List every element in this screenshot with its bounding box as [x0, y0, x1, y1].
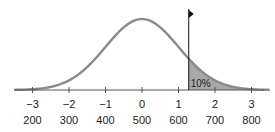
score-tick-label: 800: [242, 114, 260, 126]
score-tick-label: 200: [23, 114, 41, 126]
z-score-tick-label: 2: [212, 98, 218, 110]
z-score-tick-label: 3: [248, 98, 254, 110]
score-tick-label: 700: [206, 114, 224, 126]
z-score-tick-label: −3: [26, 98, 39, 110]
score-tick-label: 500: [133, 114, 151, 126]
flag-icon: [189, 10, 194, 18]
x-axis-ticks: −3200−2300−14000500160027003800: [23, 87, 260, 126]
bell-curve: [14, 19, 270, 90]
shaded-area-label: 10%: [191, 78, 211, 89]
z-score-tick-label: 0: [139, 98, 145, 110]
z-score-tick-label: −1: [99, 98, 112, 110]
score-tick-label: 300: [60, 114, 78, 126]
score-tick-label: 600: [169, 114, 187, 126]
normal-distribution-chart: −3200−2300−14000500160027003800 10%: [0, 0, 275, 132]
score-tick-label: 400: [96, 114, 114, 126]
z-score-tick-label: 1: [175, 98, 181, 110]
z-score-tick-label: −2: [63, 98, 76, 110]
